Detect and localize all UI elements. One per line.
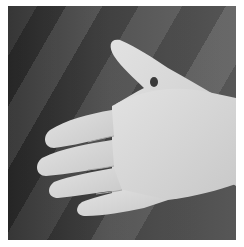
hand-photo <box>8 6 236 240</box>
hand-illustration <box>8 6 236 240</box>
marker-dot <box>150 77 158 87</box>
